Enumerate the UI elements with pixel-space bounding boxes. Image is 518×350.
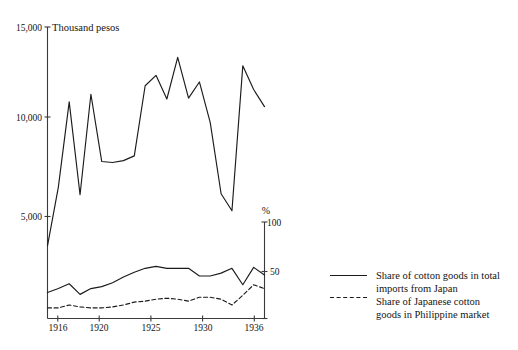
- x-tick-label-1936: 1936: [245, 323, 264, 333]
- series-line-share-of-japanese-goods-in-market: [48, 285, 265, 308]
- y-tick-label-10000: 10,000: [16, 113, 42, 123]
- y2-tick-label-50: 50: [270, 267, 280, 277]
- x-tick-label-1916: 1916: [49, 323, 68, 333]
- legend-label-dashed-line2: goods in Philippine market: [376, 309, 490, 320]
- y2-tick-label-100: 100: [267, 218, 282, 228]
- legend-label-dashed-line1: Share of Japanese cotton: [376, 296, 481, 307]
- axes-group: [48, 27, 265, 319]
- legend-label-solid-line1: Share of cotton goods in total: [376, 270, 500, 281]
- y2-axis-unit-label: %: [262, 205, 270, 216]
- x-tick-label-1930: 1930: [194, 323, 213, 333]
- series-line-imports-value: [48, 57, 265, 246]
- y-axis-left-ticks: 15,000 10,000 5,000: [16, 23, 51, 223]
- x-tick-label-1920: 1920: [90, 323, 109, 333]
- line-chart-svg: 15,000 10,000 5,000 Thousand pesos 100 5…: [0, 0, 518, 350]
- legend-label-solid-line2: imports from Japan: [376, 283, 458, 294]
- series-line-share-of-cotton-in-total-imports: [48, 266, 265, 294]
- x-tick-label-1925: 1925: [142, 323, 161, 333]
- y-axis-unit-label: Thousand pesos: [52, 22, 119, 33]
- chart-figure: 15,000 10,000 5,000 Thousand pesos 100 5…: [0, 0, 518, 350]
- y-tick-label-5000: 5,000: [21, 212, 43, 222]
- legend: Share of cotton goods in total imports f…: [330, 270, 500, 320]
- y-tick-label-15000: 15,000: [16, 23, 42, 33]
